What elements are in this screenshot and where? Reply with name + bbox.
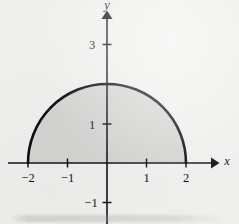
x-tick-label-2: 2 bbox=[183, 171, 189, 185]
x-tick-label-1: 1 bbox=[143, 171, 149, 185]
coordinate-plot: −2 −1 1 2 3 1 −1 x y bbox=[0, 0, 239, 224]
x-tick-label-minus2: −2 bbox=[21, 171, 34, 185]
x-axis-arrow-icon bbox=[211, 158, 220, 169]
x-axis-label: x bbox=[223, 154, 230, 168]
y-tick-label-minus1: −1 bbox=[84, 196, 97, 210]
figure-container: −2 −1 1 2 3 1 −1 x y bbox=[0, 0, 239, 224]
y-axis-label: y bbox=[102, 0, 110, 12]
y-tick-label-3: 3 bbox=[89, 38, 95, 52]
x-tick-label-minus1: −1 bbox=[61, 171, 74, 185]
y-tick-label-1: 1 bbox=[89, 118, 95, 132]
